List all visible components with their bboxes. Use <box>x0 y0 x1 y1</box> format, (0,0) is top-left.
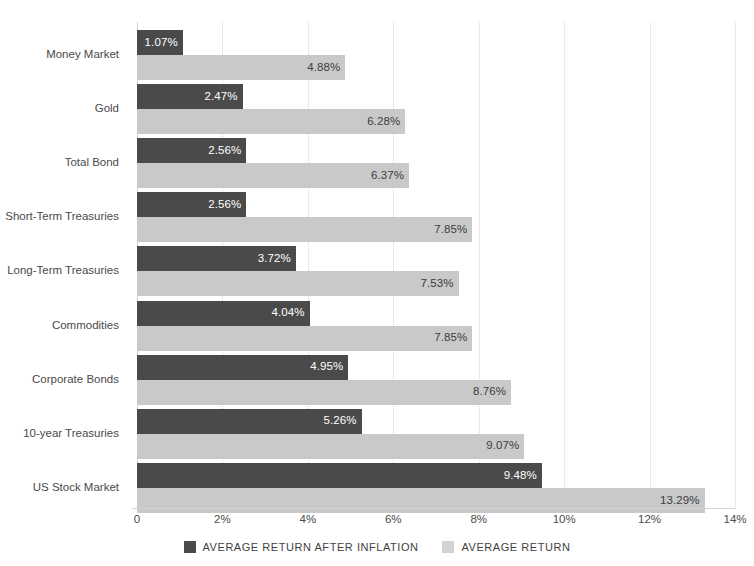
bar-value-label: 4.04% <box>271 307 309 319</box>
x-axis-tick: 12% <box>638 514 661 526</box>
bar-light[interactable]: 7.53% <box>137 271 459 296</box>
bar-dark[interactable]: 4.95% <box>137 355 348 380</box>
bar-group: 4.04%7.85% <box>137 301 735 351</box>
bar-value-label: 8.76% <box>473 386 511 398</box>
bar-value-label: 3.72% <box>258 253 296 265</box>
x-axis-line <box>132 508 735 509</box>
legend-label: AVERAGE RETURN AFTER INFLATION <box>203 542 419 553</box>
bar-value-label: 2.56% <box>208 145 246 157</box>
bar-group: 9.48%13.29% <box>137 463 735 513</box>
bar-value-label: 7.85% <box>434 224 472 236</box>
bar-groups: 1.07%4.88%2.47%6.28%2.56%6.37%2.56%7.85%… <box>137 22 735 509</box>
bar-dark[interactable]: 9.48% <box>137 463 542 488</box>
y-axis-label-short-term-treasuries: Short-Term Treasuries <box>5 211 119 223</box>
bar-group: 2.56%6.37% <box>137 138 735 188</box>
chart-legend: AVERAGE RETURN AFTER INFLATIONAVERAGE RE… <box>0 541 754 553</box>
bar-value-label: 6.28% <box>367 116 405 128</box>
bar-value-label: 2.47% <box>204 91 242 103</box>
bar-group: 1.07%4.88% <box>137 30 735 80</box>
legend-swatch-light <box>442 541 454 553</box>
bar-light[interactable]: 6.28% <box>137 109 405 134</box>
bar-value-label: 5.26% <box>324 415 362 427</box>
y-axis-category-labels: Money MarketGoldTotal BondShort-Term Tre… <box>0 22 128 509</box>
bar-chart: Money MarketGoldTotal BondShort-Term Tre… <box>0 0 754 566</box>
bar-value-label: 13.29% <box>660 495 705 507</box>
y-axis-label-money-market: Money Market <box>46 49 119 61</box>
bar-light[interactable]: 6.37% <box>137 163 409 188</box>
legend-item[interactable]: AVERAGE RETURN AFTER INFLATION <box>184 541 419 553</box>
bar-value-label: 4.88% <box>307 62 345 74</box>
bar-value-label: 1.07% <box>145 37 183 49</box>
bar-value-label: 4.95% <box>310 361 348 373</box>
y-axis-label-gold: Gold <box>95 103 119 115</box>
bar-value-label: 2.56% <box>208 199 246 211</box>
bar-group: 5.26%9.07% <box>137 409 735 459</box>
y-axis-label-total-bond: Total Bond <box>65 157 119 169</box>
bar-light[interactable]: 7.85% <box>137 217 472 242</box>
bar-dark[interactable]: 1.07% <box>137 30 183 55</box>
bar-dark[interactable]: 4.04% <box>137 301 310 326</box>
bar-group: 4.95%8.76% <box>137 355 735 405</box>
x-axis-tick: 0 <box>134 514 140 526</box>
y-axis-label-commodities: Commodities <box>52 320 119 332</box>
x-axis-tick: 4% <box>300 514 317 526</box>
bar-dark[interactable]: 2.47% <box>137 84 243 109</box>
gridline <box>735 22 737 509</box>
y-axis-label-long-term-treasuries: Long-Term Treasuries <box>7 265 119 277</box>
bar-value-label: 9.48% <box>504 470 542 482</box>
legend-label: AVERAGE RETURN <box>461 542 570 553</box>
bar-group: 2.56%7.85% <box>137 192 735 242</box>
x-axis-tick: 6% <box>385 514 402 526</box>
plot-area: 1.07%4.88%2.47%6.28%2.56%6.37%2.56%7.85%… <box>137 22 735 509</box>
bar-value-label: 9.07% <box>486 440 524 452</box>
x-axis-tick: 8% <box>470 514 487 526</box>
legend-swatch-dark <box>184 541 196 553</box>
y-axis-label-us-stock-market: US Stock Market <box>33 482 119 494</box>
bar-dark[interactable]: 5.26% <box>137 409 362 434</box>
bar-light[interactable]: 4.88% <box>137 55 345 80</box>
bar-light[interactable]: 13.29% <box>137 488 705 513</box>
legend-item[interactable]: AVERAGE RETURN <box>442 541 570 553</box>
bar-dark[interactable]: 2.56% <box>137 138 246 163</box>
bar-dark[interactable]: 3.72% <box>137 246 296 271</box>
x-axis-tick-labels: 02%4%6%8%10%12%14% <box>137 514 735 532</box>
x-axis-tick: 14% <box>723 514 746 526</box>
bar-value-label: 7.85% <box>434 332 472 344</box>
bar-light[interactable]: 9.07% <box>137 434 524 459</box>
bar-value-label: 6.37% <box>371 170 409 182</box>
bar-value-label: 7.53% <box>421 278 459 290</box>
x-axis-tick: 2% <box>214 514 231 526</box>
x-axis-tick: 10% <box>553 514 576 526</box>
y-axis-label-corporate-bonds: Corporate Bonds <box>32 374 119 386</box>
bar-group: 3.72%7.53% <box>137 246 735 296</box>
bar-light[interactable]: 8.76% <box>137 380 511 405</box>
bar-light[interactable]: 7.85% <box>137 326 472 351</box>
bar-group: 2.47%6.28% <box>137 84 735 134</box>
bar-dark[interactable]: 2.56% <box>137 192 246 217</box>
y-axis-label-10-year-treasuries: 10-year Treasuries <box>23 428 119 440</box>
